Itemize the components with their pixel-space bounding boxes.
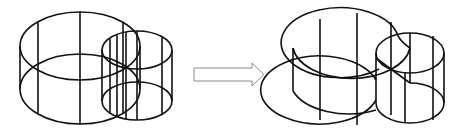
diagram-svg [0, 0, 461, 137]
right-figure [261, 8, 444, 125]
left-figure [20, 12, 172, 124]
right-arrow-icon [194, 63, 264, 86]
merged-small-part [376, 33, 444, 123]
diagram-canvas [0, 0, 461, 137]
